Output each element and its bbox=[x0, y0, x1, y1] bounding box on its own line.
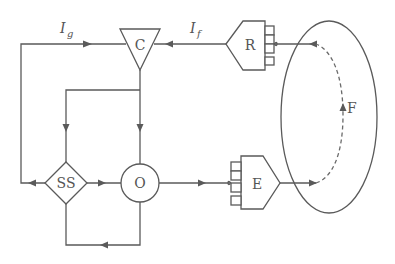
node-label-f: F bbox=[347, 100, 357, 116]
signal-label-ig: I bbox=[59, 20, 66, 36]
arrow-left-icon bbox=[100, 242, 108, 249]
edge-o-ss-bottom bbox=[66, 202, 140, 249]
edge-e-f bbox=[280, 180, 317, 187]
arrow-down-icon bbox=[63, 124, 70, 132]
node-label-c: C bbox=[135, 37, 146, 53]
edge-c-outputs bbox=[63, 70, 144, 164]
arrow-left-icon bbox=[309, 41, 317, 48]
node-label-ss: SS bbox=[57, 175, 76, 191]
node-label-e: E bbox=[252, 176, 262, 192]
arrow-down-icon bbox=[137, 124, 144, 132]
edge-ss-o bbox=[87, 180, 121, 187]
arrow-right-icon bbox=[83, 41, 92, 48]
arrow-up-icon bbox=[340, 103, 347, 111]
control-system-diagram: I g I f F C bbox=[0, 0, 395, 264]
field-ellipse bbox=[281, 21, 377, 213]
signal-label-if-sub: f bbox=[196, 28, 203, 39]
dashed-feedback-path bbox=[316, 44, 343, 183]
edge-o-e bbox=[159, 180, 230, 187]
arrow-left-icon bbox=[165, 41, 173, 48]
arrow-right-icon bbox=[309, 180, 317, 187]
signal-label-ig-sub: g bbox=[67, 28, 73, 39]
edge-ig bbox=[21, 41, 126, 187]
node-label-r: R bbox=[245, 37, 256, 53]
edge-if bbox=[154, 41, 226, 48]
signal-label-if: I bbox=[189, 20, 196, 36]
arrow-right-icon bbox=[198, 180, 206, 187]
arrow-left-icon bbox=[28, 180, 36, 187]
arrow-right-icon bbox=[98, 180, 106, 187]
node-label-o: O bbox=[134, 175, 145, 191]
